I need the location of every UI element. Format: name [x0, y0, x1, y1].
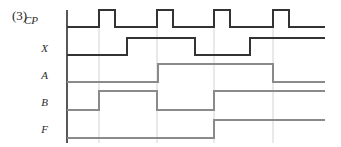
- timing-diagram-figure: (3) CPXABF: [0, 0, 341, 147]
- signal-label-x: X: [26, 42, 48, 54]
- signal-label-b: B: [26, 96, 48, 108]
- waveform-b: [67, 91, 325, 110]
- gridlines-group: [99, 10, 273, 143]
- waveforms-group: [67, 10, 325, 138]
- waveform-cp: [67, 10, 325, 27]
- waveform-x: [67, 38, 325, 55]
- signal-label-cp: CP: [16, 14, 38, 26]
- waveform-a: [67, 64, 325, 82]
- waveform-f: [67, 120, 325, 138]
- timing-diagram-canvas: [0, 0, 341, 147]
- signal-label-a: A: [26, 69, 48, 81]
- signal-label-f: F: [26, 123, 48, 135]
